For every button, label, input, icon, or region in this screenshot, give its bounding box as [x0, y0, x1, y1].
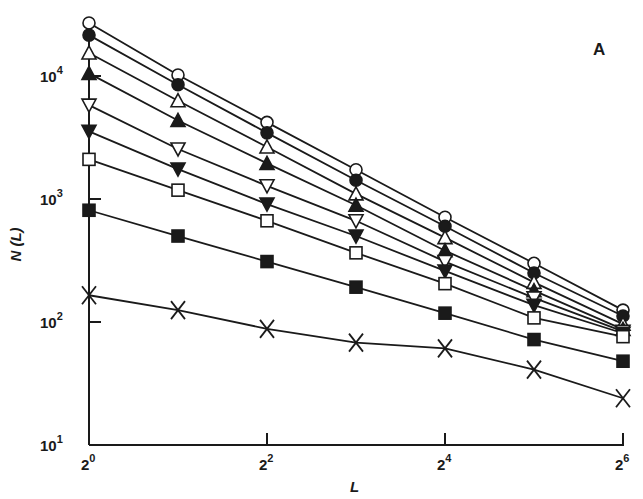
filled-triangle-up-marker — [260, 156, 274, 169]
open-triangle-down-marker — [260, 180, 274, 193]
x-tick-label: 22 — [259, 454, 273, 473]
open-square-marker — [528, 312, 540, 324]
x-tick-label: 20 — [81, 454, 95, 473]
y-tick-label: 104 — [40, 66, 63, 85]
y-tick-label: 101 — [40, 435, 63, 454]
filled-triangle-down-marker — [171, 163, 185, 176]
series-markers — [82, 17, 630, 407]
filled-square-marker — [172, 230, 184, 242]
filled-square-marker — [261, 256, 273, 268]
open-square-marker — [617, 331, 629, 343]
filled-circle-marker — [172, 79, 184, 91]
open-triangle-up-marker — [438, 231, 452, 244]
y-tick-label: 102 — [40, 312, 63, 331]
open-triangle-up-marker — [82, 46, 96, 59]
cross-marker — [616, 389, 630, 407]
open-square-marker — [350, 247, 362, 259]
open-square-marker — [172, 184, 184, 196]
filled-square-marker — [528, 334, 540, 346]
filled-square-marker — [617, 355, 629, 367]
y-axis-title: N (L) — [7, 227, 24, 261]
filled-triangle-up-marker — [171, 113, 185, 126]
filled-circle-marker — [83, 29, 95, 41]
open-circle-marker — [83, 17, 95, 29]
cross-marker — [527, 361, 541, 379]
series-line-cross — [89, 295, 623, 398]
open-square-marker — [439, 278, 451, 290]
filled-triangle-down-marker — [527, 299, 541, 312]
open-square-marker — [83, 153, 95, 165]
panel-label: A — [593, 40, 605, 60]
open-triangle-down-marker — [349, 215, 363, 228]
open-square-marker — [261, 215, 273, 227]
open-triangle-up-marker — [171, 94, 185, 107]
chart-plot-area — [0, 0, 643, 499]
filled-triangle-down-marker — [260, 198, 274, 211]
x-tick-label: 26 — [615, 454, 629, 473]
x-tick-label: 24 — [437, 454, 451, 473]
filled-triangle-down-marker — [438, 265, 452, 278]
x-axis-title: L — [350, 478, 359, 495]
open-triangle-down-marker — [82, 99, 96, 112]
filled-square-marker — [439, 307, 451, 319]
filled-square-marker — [350, 281, 362, 293]
filled-triangle-up-marker — [438, 244, 452, 257]
filled-triangle-down-marker — [349, 230, 363, 243]
filled-square-marker — [83, 204, 95, 216]
open-triangle-up-marker — [260, 140, 274, 153]
filled-triangle-up-marker — [82, 66, 96, 79]
filled-circle-marker — [350, 174, 362, 186]
filled-triangle-down-marker — [82, 125, 96, 138]
open-triangle-down-marker — [171, 143, 185, 156]
y-tick-label: 103 — [40, 189, 63, 208]
filled-circle-marker — [261, 127, 273, 139]
